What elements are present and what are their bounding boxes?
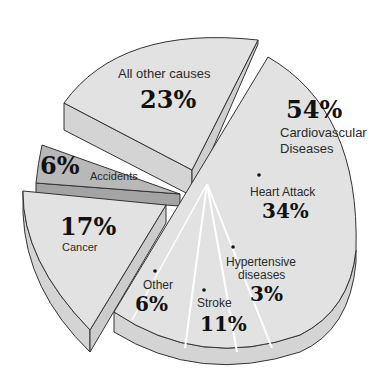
marker-hypertensive	[231, 245, 235, 249]
pct-all-other-causes: 23%	[140, 85, 196, 114]
pie-chart: All other causes 23% 6% Accidents 17% Ca…	[0, 0, 391, 387]
marker-other	[153, 269, 157, 273]
pct-cardio: 54%	[286, 95, 342, 124]
pct-stroke: 11%	[200, 312, 247, 336]
label-heart-attack: Heart Attack	[250, 185, 316, 199]
label-stroke: Stroke	[197, 296, 232, 310]
label-cardio-line2: Diseases	[280, 141, 334, 156]
pct-other: 6%	[135, 292, 168, 316]
label-cardio-line1: Cardiovascular	[280, 125, 367, 140]
label-all-other-causes: All other causes	[118, 66, 211, 81]
label-hypertensive-line1: Hypertensive	[226, 255, 296, 269]
pct-cancer: 17%	[60, 212, 116, 241]
label-hypertensive-line2: diseases	[238, 268, 285, 282]
pct-hypertensive: 3%	[250, 282, 283, 306]
label-cancer: Cancer	[62, 241, 98, 253]
pct-accidents: 6%	[40, 151, 80, 180]
marker-heart-attack	[257, 173, 261, 177]
label-other: Other	[143, 278, 173, 292]
pct-heart-attack: 34%	[262, 199, 309, 223]
marker-stroke	[202, 288, 206, 292]
label-accidents: Accidents	[90, 170, 138, 182]
